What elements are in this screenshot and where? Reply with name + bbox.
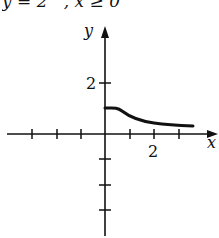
x-axis-label: x <box>207 133 216 152</box>
x-tick-label-2: 2 <box>148 142 158 161</box>
y-tick-label-2: 2 <box>86 74 96 93</box>
y-axis-arrow-icon <box>101 26 109 38</box>
function-curve <box>105 108 193 126</box>
y-axis-label: y <box>83 21 94 40</box>
graph: y x 2 2 <box>0 0 219 238</box>
